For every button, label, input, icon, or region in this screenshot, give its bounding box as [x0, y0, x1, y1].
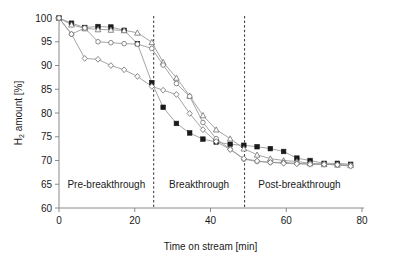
h2-breakthrough-chart: 6065707580859095100 020406080 Pre-breakt…: [0, 0, 401, 261]
series-filled-square-marker: [268, 146, 273, 151]
post-breakthrough-label: Post-breakthrough: [258, 179, 340, 190]
series-open-circle-marker: [187, 94, 192, 99]
series-filled-square-marker: [281, 149, 286, 154]
chart-figure: 6065707580859095100 020406080 Pre-breakt…: [0, 0, 401, 261]
series-filled-square-marker: [201, 137, 206, 142]
x-axis-title: Time on stream [min]: [164, 241, 258, 252]
pre-breakthrough-label: Pre-breakthrough: [67, 179, 145, 190]
y-tick-label: 65: [41, 179, 53, 190]
series-open-circle-marker: [109, 40, 114, 45]
y-tick-label: 100: [35, 13, 52, 24]
region-labels: Pre-breakthroughBreakthroughPost-breakth…: [67, 179, 340, 190]
series-open-circle-marker: [122, 41, 127, 46]
y-tick-label: 80: [41, 108, 53, 119]
x-tick-label: 0: [56, 215, 62, 226]
y-axis-title-pre: H: [13, 138, 24, 145]
series-open-circle-marker: [161, 63, 166, 68]
x-tick-label: 60: [281, 215, 293, 226]
y-tick-label: 75: [41, 131, 53, 142]
x-tick-label: 40: [205, 215, 217, 226]
x-tick-label: 20: [129, 215, 141, 226]
y-tick-label: 60: [41, 203, 53, 214]
y-tick-label: 90: [41, 60, 53, 71]
series-open-circle-marker: [201, 120, 206, 125]
series-open-circle-marker: [82, 26, 87, 31]
series-open-circle-marker: [174, 81, 179, 86]
series-filled-square-marker: [161, 105, 166, 110]
y-tick-label: 95: [41, 36, 53, 47]
series-filled-square-marker: [255, 144, 260, 149]
series-open-circle-marker: [135, 42, 140, 47]
y-tick-label: 85: [41, 84, 53, 95]
breakthrough-label: Breakthrough: [169, 179, 229, 190]
series-open-circle-marker: [96, 39, 101, 44]
series-open-circle-marker: [149, 46, 154, 51]
series-filled-square-marker: [228, 142, 233, 147]
series-filled-square-marker: [187, 131, 192, 136]
y-tick-label: 70: [41, 155, 53, 166]
series-filled-square-marker: [174, 121, 179, 126]
y-axis-title-post: amount [%]: [13, 81, 24, 135]
x-tick-label: 80: [356, 215, 368, 226]
